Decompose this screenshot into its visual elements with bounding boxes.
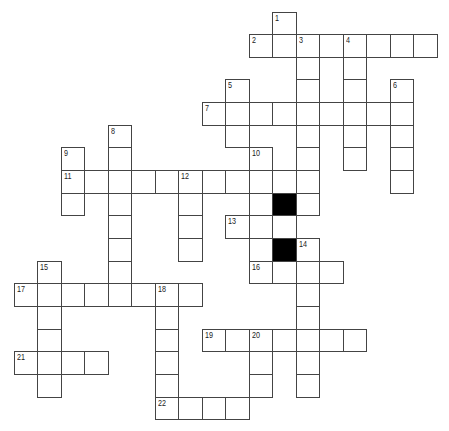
- crossword-cell[interactable]: [319, 329, 344, 353]
- crossword-cell[interactable]: [272, 102, 297, 126]
- crossword-cell[interactable]: 4: [343, 34, 368, 58]
- crossword-cell[interactable]: [84, 170, 109, 194]
- crossword-cell[interactable]: 1: [272, 12, 297, 36]
- crossword-cell[interactable]: [37, 374, 62, 398]
- crossword-cell[interactable]: 13: [225, 215, 250, 239]
- crossword-cell[interactable]: [296, 125, 321, 149]
- crossword-cell[interactable]: [155, 351, 180, 375]
- crossword-cell[interactable]: [225, 125, 250, 149]
- crossword-cell[interactable]: [108, 261, 133, 285]
- crossword-cell[interactable]: [319, 102, 344, 126]
- crossword-cell[interactable]: [131, 283, 156, 307]
- crossword-cell[interactable]: [343, 125, 368, 149]
- crossword-cell[interactable]: [272, 215, 297, 239]
- crossword-cell[interactable]: 7: [202, 102, 227, 126]
- crossword-cell[interactable]: [178, 397, 203, 421]
- crossword-cell[interactable]: [178, 283, 203, 307]
- crossword-cell[interactable]: [178, 238, 203, 262]
- crossword-cell[interactable]: 17: [14, 283, 39, 307]
- crossword-cell[interactable]: [225, 329, 250, 353]
- crossword-cell[interactable]: [343, 147, 368, 171]
- crossword-cell[interactable]: [178, 215, 203, 239]
- crossword-cell[interactable]: [413, 34, 438, 58]
- crossword-cell[interactable]: [296, 79, 321, 103]
- crossword-cell[interactable]: [155, 306, 180, 330]
- crossword-cell[interactable]: [296, 102, 321, 126]
- crossword-cell[interactable]: [366, 102, 391, 126]
- crossword-cell[interactable]: [272, 329, 297, 353]
- crossword-cell[interactable]: [390, 102, 415, 126]
- crossword-cell[interactable]: [131, 170, 156, 194]
- crossword-cell[interactable]: [108, 283, 133, 307]
- crossword-cell[interactable]: [296, 261, 321, 285]
- crossword-cell[interactable]: [108, 215, 133, 239]
- crossword-cell[interactable]: 3: [296, 34, 321, 58]
- crossword-cell[interactable]: [37, 351, 62, 375]
- crossword-cell[interactable]: 19: [202, 329, 227, 353]
- crossword-cell[interactable]: [202, 397, 227, 421]
- crossword-cell[interactable]: [249, 170, 274, 194]
- crossword-cell[interactable]: [155, 170, 180, 194]
- crossword-cell[interactable]: [366, 34, 391, 58]
- crossword-cell[interactable]: 2: [249, 34, 274, 58]
- crossword-cell[interactable]: 8: [108, 125, 133, 149]
- crossword-cell[interactable]: [61, 351, 86, 375]
- crossword-cell[interactable]: [61, 193, 86, 217]
- crossword-cell[interactable]: [178, 193, 203, 217]
- crossword-cell[interactable]: [61, 283, 86, 307]
- crossword-cell[interactable]: [225, 397, 250, 421]
- crossword-cell[interactable]: 10: [249, 147, 274, 171]
- crossword-cell[interactable]: [296, 351, 321, 375]
- crossword-cell[interactable]: [296, 147, 321, 171]
- crossword-cell[interactable]: [343, 329, 368, 353]
- crossword-cell[interactable]: 6: [390, 79, 415, 103]
- crossword-cell[interactable]: [319, 34, 344, 58]
- crossword-cell[interactable]: [296, 170, 321, 194]
- crossword-cell[interactable]: 22: [155, 397, 180, 421]
- crossword-cell[interactable]: [296, 57, 321, 81]
- crossword-cell[interactable]: [249, 102, 274, 126]
- crossword-cell[interactable]: [343, 102, 368, 126]
- crossword-cell[interactable]: [272, 170, 297, 194]
- crossword-cell[interactable]: [343, 57, 368, 81]
- crossword-cell[interactable]: [202, 170, 227, 194]
- crossword-cell[interactable]: [108, 170, 133, 194]
- crossword-cell[interactable]: [155, 329, 180, 353]
- crossword-cell[interactable]: 21: [14, 351, 39, 375]
- crossword-cell[interactable]: 5: [225, 79, 250, 103]
- crossword-cell[interactable]: [296, 374, 321, 398]
- crossword-cell[interactable]: 9: [61, 147, 86, 171]
- crossword-cell[interactable]: [84, 351, 109, 375]
- crossword-cell[interactable]: [390, 125, 415, 149]
- crossword-cell[interactable]: 12: [178, 170, 203, 194]
- crossword-cell[interactable]: [390, 170, 415, 194]
- crossword-cell[interactable]: [225, 170, 250, 194]
- crossword-cell[interactable]: [37, 329, 62, 353]
- crossword-cell[interactable]: [249, 351, 274, 375]
- crossword-cell[interactable]: [108, 238, 133, 262]
- crossword-cell[interactable]: [108, 147, 133, 171]
- crossword-cell[interactable]: [319, 261, 344, 285]
- crossword-cell[interactable]: [108, 193, 133, 217]
- crossword-cell[interactable]: 15: [37, 261, 62, 285]
- crossword-cell[interactable]: [296, 329, 321, 353]
- crossword-cell[interactable]: [249, 374, 274, 398]
- crossword-cell[interactable]: [37, 283, 62, 307]
- crossword-cell[interactable]: [249, 193, 274, 217]
- crossword-cell[interactable]: [84, 283, 109, 307]
- crossword-cell[interactable]: 16: [249, 261, 274, 285]
- crossword-cell[interactable]: [343, 79, 368, 103]
- crossword-cell[interactable]: 14: [296, 238, 321, 262]
- crossword-cell[interactable]: [225, 102, 250, 126]
- crossword-cell[interactable]: [249, 238, 274, 262]
- crossword-cell[interactable]: [296, 283, 321, 307]
- crossword-cell[interactable]: [272, 261, 297, 285]
- crossword-cell[interactable]: [296, 193, 321, 217]
- crossword-cell[interactable]: 20: [249, 329, 274, 353]
- crossword-cell[interactable]: [390, 147, 415, 171]
- crossword-cell[interactable]: [249, 215, 274, 239]
- crossword-cell[interactable]: [390, 34, 415, 58]
- crossword-cell[interactable]: 11: [61, 170, 86, 194]
- crossword-cell[interactable]: [155, 374, 180, 398]
- crossword-cell[interactable]: 18: [155, 283, 180, 307]
